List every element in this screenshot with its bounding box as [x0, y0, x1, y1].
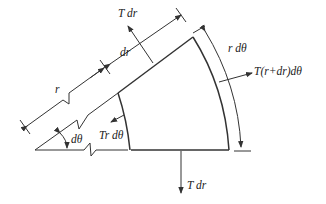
left-force-label: Tr dθ [99, 129, 124, 141]
membrane-element-diagram: T dr dr r r dθ T(r+dr)dθ Tr dθ dθ T dr [0, 0, 326, 204]
dr-tick-top [176, 8, 186, 22]
radius-arrow-right [90, 68, 104, 78]
radius-tick-right [100, 60, 110, 74]
right-force-arrow [219, 73, 252, 82]
dr-label: dr [120, 46, 131, 58]
radius-label: r [55, 83, 60, 95]
arc-dimension-tick-top [193, 26, 205, 33]
top-force-label: T dr [118, 7, 138, 19]
right-force-label: T(r+dr)dθ [254, 65, 302, 78]
element-inner-edge [118, 93, 130, 150]
angle-label: dθ [71, 133, 83, 145]
arc-length-label: r dθ [228, 42, 247, 54]
bottom-force-label: T dr [187, 179, 207, 191]
element-outer-edge [193, 37, 229, 150]
top-force-arrow [128, 26, 153, 63]
radius-tick-left [20, 120, 30, 134]
angle-arc [60, 133, 67, 148]
left-force-arrow [111, 115, 124, 122]
